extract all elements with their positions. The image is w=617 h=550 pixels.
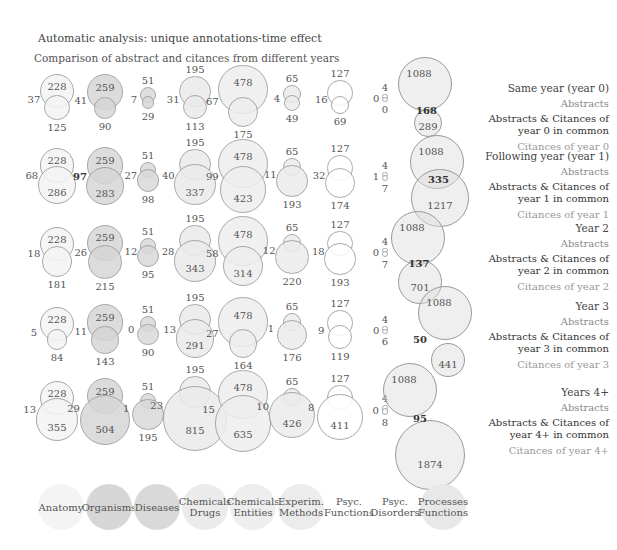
category-label: Organisms [82,502,137,513]
abstracts-count: 51 [142,225,155,236]
processes-abstracts-circle [418,286,472,340]
abstracts-count: 4 [382,235,388,246]
common-count: 27 [206,327,219,338]
citances-circle [277,320,307,350]
diagram-title: Automatic analysis: unique annotations-t… [38,32,322,45]
category-chemicals-drugs: ChemicalsDrugs [182,484,228,530]
common-count: 27 [124,170,137,181]
abstracts-count: 195 [185,212,204,223]
citances-count: 7 [382,258,388,269]
row-legend-common-1: Abstracts & Citances of [485,181,609,193]
abstracts-count: 228 [47,80,66,91]
citances-count: 286 [47,187,66,198]
category-label: Chemicals [179,496,232,507]
citances-count: 343 [185,263,204,274]
common-count: 11 [74,326,87,337]
processes-common-count: 168 [416,105,437,116]
processes-abstracts-circle [383,363,437,417]
category-label-2: Methods [279,507,323,518]
citances-count: 504 [95,423,114,434]
abstracts-count: 51 [142,74,155,85]
common-count: 41 [74,95,87,106]
citances-count: 176 [282,352,301,363]
abstracts-count: 127 [330,218,349,229]
abstracts-count: 65 [286,146,299,157]
citances-circle [328,325,353,350]
citances-circle [142,96,154,108]
category-label-2: Functions [324,507,374,518]
citances-count: 29 [142,110,155,121]
common-count: 12 [263,244,276,255]
citances-count: 220 [282,275,301,286]
common-count: 26 [74,247,87,258]
common-count: 13 [23,403,36,414]
abstracts-count: 4 [382,159,388,170]
citances-count: 0 [382,104,388,115]
abstracts-count: 65 [286,221,299,232]
abstracts-count: 228 [47,155,66,166]
citances-count: 815 [185,424,204,435]
citances-count: 164 [233,360,252,371]
abstracts-count: 51 [142,304,155,315]
common-count: 28 [162,245,175,256]
row-legend-abstracts: Abstracts [489,402,609,414]
common-count: 8 [308,402,314,413]
abstracts-count: 195 [185,291,204,302]
citances-circle [382,329,388,335]
common-count: 18 [28,247,41,258]
abstracts-count: 259 [95,385,114,396]
row-legend-title: Year 2 [489,222,609,234]
row-legend-abstracts: Abstracts [489,98,609,110]
category-label-2: Entities [233,507,272,518]
processes-common-count: 95 [413,413,427,424]
processes-citances-circle [395,420,466,491]
abstracts-count: 127 [330,298,349,309]
citances-circle [38,166,76,204]
category-experim-methods: Experim.Methods [278,484,324,530]
abstracts-count: 65 [286,300,299,311]
abstracts-count: 478 [233,228,252,239]
citances-count: 95 [142,269,155,280]
processes-common-count: 335 [428,174,449,185]
category-anatomy: Anatomy [38,484,84,530]
common-count: 12 [125,246,138,257]
citances-count: 291 [185,340,204,351]
citances-circle [88,245,121,278]
citances-circle [183,95,207,119]
row-legend-year1: Following year (year 1) Abstracts Abstra… [485,150,609,221]
common-count: 1 [123,402,129,413]
citances-count: 175 [233,128,252,139]
citances-circle [331,96,350,115]
citances-count: 69 [334,116,347,127]
abstracts-count: 478 [233,150,252,161]
category-label-2: Disorders [370,507,419,518]
row-legend-citances: Citances of year 3 [489,359,609,371]
abstracts-count: 51 [142,381,155,392]
row-legend-title: Years 4+ [489,386,609,398]
row-legend-year2: Year 2 Abstracts Abstracts & Citances of… [489,222,609,293]
citances-circle [382,408,388,414]
category-label-2: Drugs [190,507,221,518]
citances-circle [137,324,158,345]
row-legend-common-2: year 3 in common [489,343,609,355]
processes-citances-count: 1874 [417,458,442,469]
category-label: Psyc. [336,496,362,507]
category-psyc-functions: Psyc.Functions [326,484,372,530]
citances-count: 635 [233,428,252,439]
citances-circle [94,97,115,118]
processes-citances-count: 1217 [427,200,452,211]
citances-count: 355 [47,421,66,432]
citances-count: 215 [95,280,114,291]
common-count: 68 [26,170,39,181]
common-count: 99 [206,171,219,182]
citances-circle [284,95,300,111]
citances-circle [382,97,388,103]
abstracts-count: 228 [47,233,66,244]
citances-count: 193 [282,198,301,209]
abstracts-count: 478 [233,309,252,320]
row-legend-common-2: year 0 in common [489,125,609,137]
common-count: 32 [313,170,326,181]
abstracts-count: 259 [95,81,114,92]
citances-circle [325,168,355,198]
citances-circle [86,167,124,205]
